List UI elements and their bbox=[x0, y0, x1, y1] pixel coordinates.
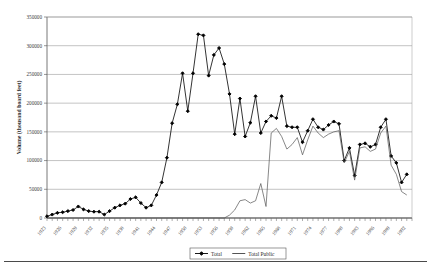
data-point-marker bbox=[228, 92, 231, 95]
data-point-marker bbox=[358, 143, 361, 146]
data-point-marker bbox=[218, 46, 221, 49]
data-point-marker bbox=[176, 103, 179, 106]
data-point-marker bbox=[254, 95, 257, 98]
data-point-marker bbox=[197, 33, 200, 36]
data-point-marker bbox=[249, 121, 252, 124]
data-point-marker bbox=[270, 114, 273, 117]
data-point-marker bbox=[191, 72, 194, 75]
data-point-marker bbox=[61, 211, 64, 214]
data-point-marker bbox=[171, 122, 174, 125]
data-point-marker bbox=[395, 161, 398, 164]
data-point-marker bbox=[165, 156, 168, 159]
data-point-marker bbox=[181, 72, 184, 75]
y-axis-tick-label: 300000 bbox=[26, 43, 42, 49]
x-axis-tick-label: 1926 bbox=[52, 225, 63, 236]
data-point-marker bbox=[317, 126, 320, 129]
chart-figure: 0500001000001500002000002500003000003500… bbox=[0, 0, 431, 272]
data-point-marker bbox=[108, 210, 111, 213]
data-point-marker bbox=[145, 206, 148, 209]
x-axis-tick-label: 1965 bbox=[256, 225, 267, 236]
x-axis-tick-label: 1956 bbox=[209, 225, 220, 236]
plot-area-background bbox=[47, 17, 412, 218]
data-point-marker bbox=[233, 133, 236, 136]
line-chart: 0500001000001500002000002500003000003500… bbox=[0, 0, 431, 272]
data-point-marker bbox=[207, 74, 210, 77]
data-point-marker bbox=[379, 126, 382, 129]
x-axis-tick-label: 1989 bbox=[381, 225, 392, 236]
data-point-marker bbox=[244, 135, 247, 138]
y-axis-tick-label: 200000 bbox=[26, 100, 42, 106]
data-point-marker bbox=[155, 193, 158, 196]
data-point-marker bbox=[223, 63, 226, 66]
x-axis-tick-label: 1986 bbox=[365, 225, 376, 236]
x-axis-tick-label: 1935 bbox=[99, 225, 110, 236]
x-axis-tick-label: 1974 bbox=[302, 225, 313, 236]
data-point-marker bbox=[280, 95, 283, 98]
x-axis-tick-label: 1983 bbox=[349, 225, 360, 236]
x-axis-tick-label: 1950 bbox=[177, 225, 188, 236]
x-axis-tick-label: 1971 bbox=[287, 225, 298, 236]
x-axis-tick-label: 1980 bbox=[334, 225, 345, 236]
y-axis-tick-label: 50000 bbox=[29, 186, 42, 192]
data-point-marker bbox=[124, 202, 127, 205]
data-point-marker bbox=[77, 205, 80, 208]
x-axis-tick-label: 1977 bbox=[318, 225, 329, 236]
x-axis-tick-label: 1962 bbox=[240, 225, 251, 236]
y-axis-tick-label: 350000 bbox=[26, 14, 42, 20]
legend-label: Total Public bbox=[248, 251, 275, 257]
data-point-marker bbox=[129, 197, 132, 200]
y-axis-tick-labels: 0500001000001500002000002500003000003500… bbox=[26, 14, 42, 221]
data-point-marker bbox=[238, 97, 241, 100]
x-axis-tick-label: 1959 bbox=[224, 225, 235, 236]
data-point-marker bbox=[103, 213, 106, 216]
x-axis-tick-label: 1953 bbox=[193, 225, 204, 236]
footer-divider bbox=[4, 261, 427, 262]
data-point-marker bbox=[51, 213, 54, 216]
data-point-marker bbox=[72, 208, 75, 211]
y-axis-tick-label: 150000 bbox=[26, 129, 42, 135]
data-point-marker bbox=[212, 53, 215, 56]
data-point-marker bbox=[56, 211, 59, 214]
data-point-marker bbox=[87, 210, 90, 213]
x-axis-tick-label: 1992 bbox=[396, 225, 407, 236]
y-axis-tick-label: 250000 bbox=[26, 71, 42, 77]
data-point-marker bbox=[186, 110, 189, 113]
data-point-marker bbox=[296, 126, 299, 129]
y-axis-tick-label: 0 bbox=[39, 215, 42, 221]
legend-label: Total bbox=[211, 251, 223, 257]
data-point-marker bbox=[82, 208, 85, 211]
data-point-marker bbox=[259, 131, 262, 134]
y-axis-tick-label: 100000 bbox=[26, 157, 42, 163]
x-axis-tick-label: 1947 bbox=[162, 225, 173, 236]
data-point-marker bbox=[45, 215, 48, 218]
data-point-marker bbox=[275, 117, 278, 120]
data-point-marker bbox=[66, 210, 69, 213]
data-point-marker bbox=[306, 129, 309, 132]
data-point-marker bbox=[134, 196, 137, 199]
x-axis-tick-labels: 1923192619291932193519381941194419471950… bbox=[37, 225, 407, 236]
data-point-marker bbox=[98, 210, 101, 213]
data-point-marker bbox=[301, 141, 304, 144]
data-point-marker bbox=[92, 210, 95, 213]
data-point-marker bbox=[285, 125, 288, 128]
data-point-marker bbox=[337, 122, 340, 125]
data-point-marker bbox=[348, 146, 351, 149]
data-point-marker bbox=[160, 181, 163, 184]
data-point-marker bbox=[139, 202, 142, 205]
data-point-marker bbox=[405, 173, 408, 176]
data-point-marker bbox=[332, 120, 335, 123]
x-axis-tick-label: 1944 bbox=[146, 225, 157, 236]
y-axis-title: Volume (thousand board feet) bbox=[16, 81, 23, 155]
x-axis-tick-label: 1929 bbox=[68, 225, 79, 236]
data-point-marker bbox=[202, 34, 205, 37]
data-point-marker bbox=[364, 142, 367, 145]
data-point-marker bbox=[264, 120, 267, 123]
data-point-marker bbox=[311, 118, 314, 121]
x-axis-tick-label: 1941 bbox=[130, 225, 141, 236]
x-axis-tick-label: 1938 bbox=[115, 225, 126, 236]
data-point-marker bbox=[327, 123, 330, 126]
data-point-marker bbox=[150, 204, 153, 207]
x-axis-tick-label: 1932 bbox=[83, 225, 94, 236]
data-point-marker bbox=[118, 204, 121, 207]
data-point-marker bbox=[113, 206, 116, 209]
